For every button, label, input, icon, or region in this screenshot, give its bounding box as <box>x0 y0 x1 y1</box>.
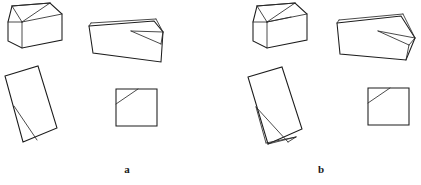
line-drawing-canvas <box>0 0 421 185</box>
panel-label-b: b <box>311 163 331 175</box>
canvas-background <box>0 0 421 185</box>
panel-label-a: a <box>117 163 137 175</box>
figure-container: a b <box>0 0 421 185</box>
